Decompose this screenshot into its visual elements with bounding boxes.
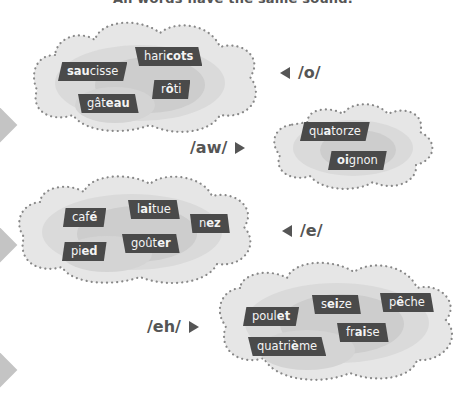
sound-label-aw: /aw/ <box>190 138 245 157</box>
instruction-caption: All words have the same sound. <box>0 0 466 6</box>
word-label: rôti <box>152 80 190 99</box>
sound-label-o: /o/ <box>280 63 321 82</box>
sound-label-e: /e/ <box>282 221 323 240</box>
sound-text: /o/ <box>298 63 321 82</box>
arrow-left-icon <box>282 225 292 237</box>
word-label: saucisse <box>58 62 127 81</box>
word-label: pied <box>62 242 107 261</box>
arrow-right-icon <box>189 321 199 333</box>
word-label: nez <box>190 214 230 233</box>
word-label: pêche <box>380 293 434 312</box>
cloud-aw <box>268 100 438 190</box>
word-label: laitue <box>128 200 180 219</box>
edge-tab-3 <box>0 352 17 389</box>
word-label: seize <box>312 295 361 314</box>
word-label: poulet <box>243 307 299 326</box>
sound-label-eh: /eh/ <box>147 317 199 336</box>
word-label: quatorze <box>300 122 370 141</box>
word-label: café <box>63 208 106 227</box>
cloud-shape <box>268 100 438 190</box>
word-label: goûter <box>122 234 180 253</box>
word-label: quatrième <box>248 337 326 356</box>
arrow-left-icon <box>280 67 290 79</box>
word-label: gâteau <box>78 94 139 113</box>
sound-text: /aw/ <box>190 138 227 157</box>
word-label: haricots <box>135 47 202 66</box>
sound-text: /eh/ <box>147 317 181 336</box>
edge-tab-1 <box>0 107 17 144</box>
word-label: oignon <box>328 151 387 170</box>
arrow-right-icon <box>235 142 245 154</box>
word-label: fraise <box>337 323 389 342</box>
sound-text: /e/ <box>300 221 323 240</box>
